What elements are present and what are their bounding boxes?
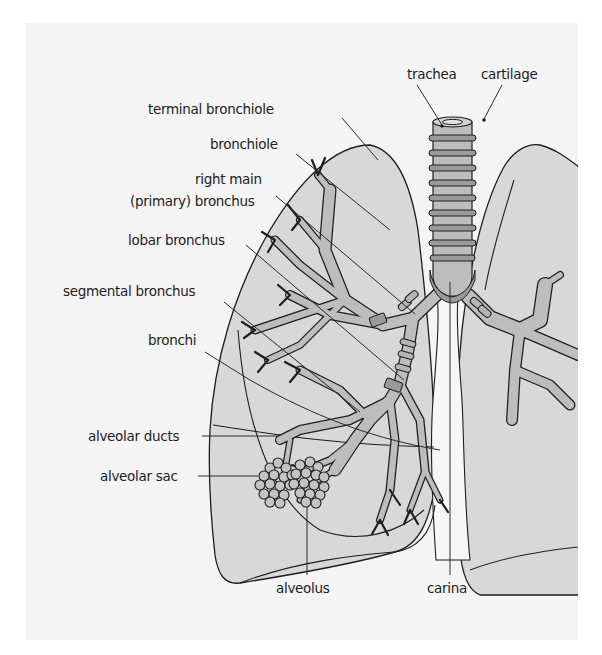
label-right-main-bronchus-line2: (primary) bronchus xyxy=(130,193,255,209)
trachea-cartilage-rings xyxy=(429,135,476,261)
label-terminal-bronchiole: terminal bronchiole xyxy=(148,101,274,117)
trachea xyxy=(429,117,476,303)
label-carina: carina xyxy=(427,580,467,596)
label-alveolus: alveolus xyxy=(276,580,330,596)
lung-diagram: trachea cartilage terminal bronchiole br… xyxy=(0,0,602,655)
label-trachea: trachea xyxy=(407,66,457,82)
label-cartilage: cartilage xyxy=(481,66,538,82)
label-alveolar-sac: alveolar sac xyxy=(100,468,178,484)
label-lobar-bronchus: lobar bronchus xyxy=(128,232,225,248)
label-bronchi: bronchi xyxy=(148,332,196,348)
label-alveolar-ducts: alveolar ducts xyxy=(88,428,179,444)
label-segmental-bronchus: segmental bronchus xyxy=(63,283,196,299)
label-right-main-bronchus-line1: right main xyxy=(195,171,262,187)
label-bronchiole: bronchiole xyxy=(210,136,278,152)
